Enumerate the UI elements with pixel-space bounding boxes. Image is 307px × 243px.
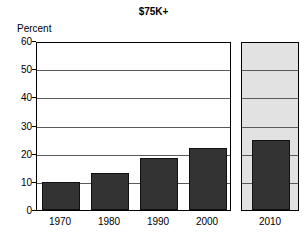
bar-1980 [91, 173, 129, 210]
y-axis-label: Percent [17, 23, 51, 35]
y-axis-tick-label: 0 [5, 206, 32, 216]
plot-area-main [36, 42, 231, 211]
y-axis-tick-label: 30 [5, 122, 32, 132]
gridline [242, 70, 298, 71]
bar-1990 [140, 158, 178, 210]
y-axis-tick-label: 40 [5, 93, 32, 103]
bar-2010 [252, 140, 290, 210]
bar-2000 [189, 148, 227, 210]
y-axis-tick-label: 60 [5, 37, 32, 47]
gridline [242, 127, 298, 128]
plot-area-projected [241, 42, 299, 211]
gridline [242, 98, 298, 99]
x-axis-tick-label-1980: 1980 [84, 216, 134, 228]
chart-title: $75K+ [0, 6, 307, 18]
y-axis-tick-label: 10 [5, 178, 32, 188]
bar-chart: $75K+ Percent 0102030405060 197019801990… [0, 0, 307, 243]
bar-1970 [42, 182, 80, 210]
x-axis-tick-label-1990: 1990 [133, 216, 183, 228]
gridline [37, 98, 230, 99]
gridline [37, 70, 230, 71]
x-axis-tick-label-2010: 2010 [245, 216, 295, 228]
gridline [37, 127, 230, 128]
x-axis-tick-label-1970: 1970 [35, 216, 85, 228]
y-axis-tick-label: 50 [5, 65, 32, 75]
y-axis-tick-label: 20 [5, 150, 32, 160]
x-axis-tick-label-2000: 2000 [182, 216, 232, 228]
